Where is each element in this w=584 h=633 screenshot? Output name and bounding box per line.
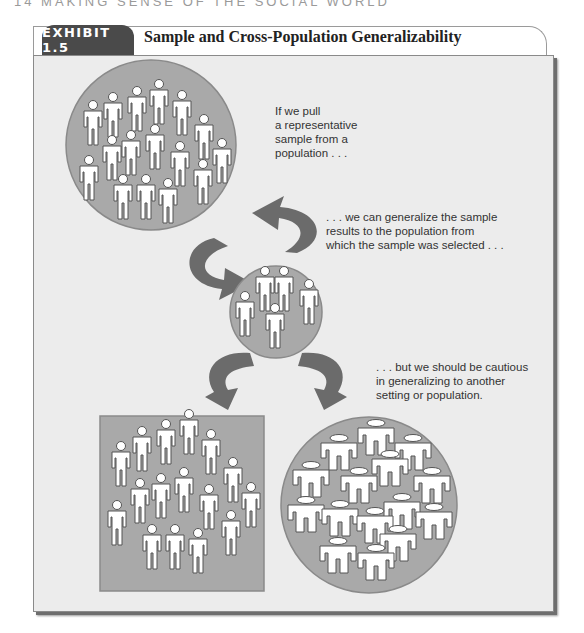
generalize-arrow [252,196,317,253]
caption-line: in generalizing to another [376,374,528,388]
diagram-canvas [0,0,584,633]
caption-line: sample from a [275,132,357,146]
caption-population: If we pull a representative sample from … [275,104,357,160]
sample-circle [230,266,322,358]
caption-line: a representative [275,118,357,132]
other-setting-square [100,410,264,592]
caption-line: population . . . [275,146,357,160]
population-circle [66,60,236,230]
caption-line: If we pull [275,104,357,118]
caution-arrow-left [205,353,254,410]
caption-caution: . . . but we should be cautious in gener… [376,360,528,402]
caption-line: . . . but we should be cautious [376,360,528,374]
caption-line: . . . we can generalize the sample [326,210,504,224]
other-population-circle [281,417,457,593]
caution-arrow-right [298,353,347,410]
caption-line: results to the population from [326,224,504,238]
caption-generalize: . . . we can generalize the sample resul… [326,210,504,252]
caption-line: which the sample was selected . . . [326,238,504,252]
caption-line: setting or population. [376,388,528,402]
